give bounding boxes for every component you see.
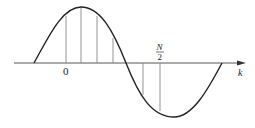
half-period-denominator: 2: [158, 52, 163, 62]
origin-label: 0: [63, 65, 69, 77]
sinusoid-diagram: 0 N 2 k: [0, 0, 255, 128]
axis-arrow-icon: [237, 61, 246, 66]
k-axis-label: k: [238, 67, 243, 78]
sinusoid-curve: [34, 7, 222, 117]
sample-lines: [66, 7, 160, 111]
half-period-numerator: N: [156, 42, 164, 52]
